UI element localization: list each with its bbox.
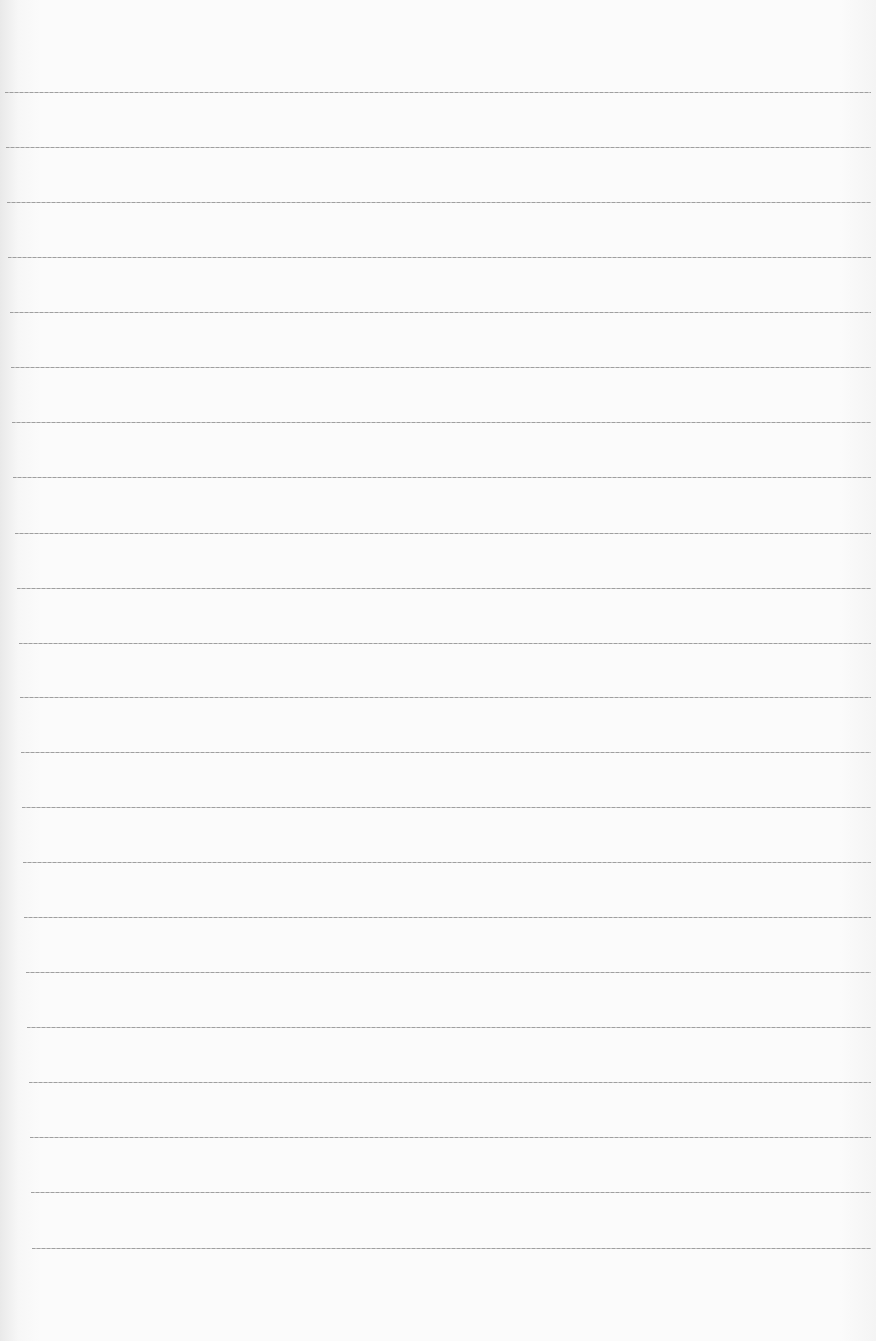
ruled-line xyxy=(11,367,871,368)
ruled-line xyxy=(15,533,871,534)
ruled-line xyxy=(26,972,871,973)
ruled-line xyxy=(8,257,871,258)
ruled-line xyxy=(13,477,871,478)
ruled-line xyxy=(27,1027,871,1028)
ruled-line xyxy=(31,1192,871,1193)
ruled-line xyxy=(22,807,871,808)
ruled-line xyxy=(21,752,871,753)
ruled-line xyxy=(19,643,871,644)
ruled-line xyxy=(23,862,871,863)
lined-paper-sheet xyxy=(0,0,876,1341)
ruled-line xyxy=(7,202,871,203)
ruled-line xyxy=(6,147,871,148)
ruled-line xyxy=(20,697,871,698)
ruled-line xyxy=(29,1082,871,1083)
ruled-line xyxy=(17,588,871,589)
ruled-line xyxy=(30,1137,871,1138)
ruled-line xyxy=(12,422,871,423)
ruled-line xyxy=(10,312,871,313)
ruled-line xyxy=(5,92,871,93)
ruled-line xyxy=(32,1248,871,1249)
ruled-line xyxy=(24,917,871,918)
